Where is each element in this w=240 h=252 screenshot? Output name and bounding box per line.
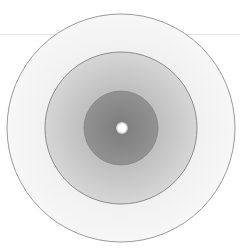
concentric-circles-figure <box>0 0 240 252</box>
center-dot <box>116 122 128 134</box>
